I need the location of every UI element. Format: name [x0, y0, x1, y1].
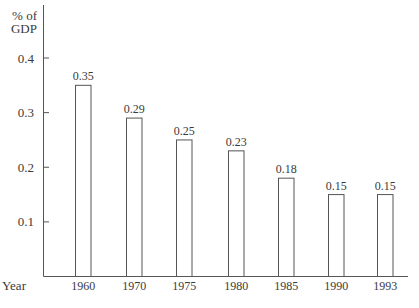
y-axis-title-line2: GDP [11, 21, 37, 36]
bar-1970 [127, 118, 143, 276]
bar-value-label: 0.18 [276, 162, 297, 176]
x-tick-label: 1990 [324, 279, 348, 293]
bar-value-label: 0.15 [375, 179, 396, 193]
y-tick-label: 0.1 [18, 214, 34, 229]
bar-1990 [329, 195, 345, 277]
bar-value-label: 0.25 [174, 124, 195, 138]
x-tick-label: 1975 [172, 279, 196, 293]
bar-value-label: 0.29 [124, 102, 145, 116]
x-tick-label: 1970 [122, 279, 146, 293]
bar-1980 [229, 151, 245, 277]
bars: 0.3519600.2919700.2519750.2319800.181985… [71, 69, 397, 293]
bar-1985 [279, 178, 295, 276]
y-ticks: 0.10.20.30.4 [18, 51, 49, 230]
x-axis-title: Year [2, 278, 27, 293]
bar-value-label: 0.15 [326, 179, 347, 193]
x-tick-label: 1960 [71, 279, 95, 293]
y-tick-label: 0.3 [18, 105, 34, 120]
bar-value-label: 0.23 [226, 135, 247, 149]
bar-1960 [76, 85, 92, 276]
x-tick-label: 1985 [274, 279, 298, 293]
x-tick-label: 1993 [373, 279, 397, 293]
y-tick-label: 0.2 [18, 160, 34, 175]
bar-chart: % of GDP 0.10.20.30.4 0.3519600.2919700.… [0, 0, 419, 308]
bar-1975 [177, 140, 193, 277]
y-tick-label: 0.4 [18, 51, 35, 66]
bar-value-label: 0.35 [73, 69, 94, 83]
x-tick-label: 1980 [224, 279, 248, 293]
bar-1993 [378, 195, 394, 277]
